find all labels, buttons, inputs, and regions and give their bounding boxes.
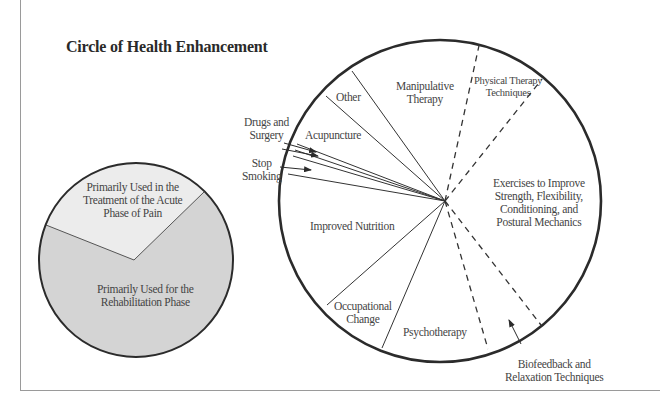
label-line: Psychotherapy bbox=[403, 326, 467, 339]
label-other: Other bbox=[336, 91, 361, 104]
label-line: Manipulative bbox=[396, 80, 454, 93]
label-line: Physical Therapy bbox=[474, 75, 542, 87]
label-line: Rehabilitation Phase bbox=[97, 296, 194, 309]
label-occupational-change: Occupational Change bbox=[334, 300, 392, 326]
label-physical-therapy: Physical Therapy Techniques bbox=[474, 75, 542, 99]
label-acupuncture: Acupuncture bbox=[305, 129, 361, 142]
label-line: Smoking bbox=[242, 170, 281, 183]
label-line: Primarily Used for the bbox=[97, 283, 194, 296]
label-drugs-and-surgery: Drugs and Surgery bbox=[244, 116, 289, 142]
label-line: Improved Nutrition bbox=[310, 220, 394, 233]
label-rehab-phase: Primarily Used for the Rehabilitation Ph… bbox=[97, 283, 194, 309]
label-line: Postural Mechanics bbox=[493, 216, 585, 229]
label-line: Conditioning, and bbox=[493, 203, 585, 216]
label-line: Drugs and bbox=[244, 116, 289, 129]
label-stop-smoking: Stop Smoking bbox=[242, 157, 281, 183]
label-line: Techniques bbox=[474, 87, 542, 99]
label-line: Exercises to Improve bbox=[493, 177, 585, 190]
label-line: Other bbox=[336, 91, 361, 104]
label-line: Biofeedback and bbox=[505, 358, 603, 371]
label-psychotherapy: Psychotherapy bbox=[403, 326, 467, 339]
label-improved-nutrition: Improved Nutrition bbox=[310, 220, 394, 233]
label-line: Therapy bbox=[396, 93, 454, 106]
label-manipulative-therapy: Manipulative Therapy bbox=[396, 80, 454, 106]
label-line: Acupuncture bbox=[305, 129, 361, 142]
label-line: Stop bbox=[242, 157, 281, 170]
label-line: Treatment of the Acute bbox=[83, 194, 182, 207]
label-biofeedback: Biofeedback and Relaxation Techniques bbox=[505, 358, 603, 384]
label-line: Strength, Flexibility, bbox=[493, 190, 585, 203]
label-line: Phase of Pain bbox=[83, 207, 182, 220]
label-acute-phase: Primarily Used in the Treatment of the A… bbox=[83, 181, 182, 220]
label-line: Relaxation Techniques bbox=[505, 371, 603, 384]
label-line: Primarily Used in the bbox=[83, 181, 182, 194]
label-exercises: Exercises to Improve Strength, Flexibili… bbox=[493, 177, 585, 229]
label-line: Occupational bbox=[334, 300, 392, 313]
label-line: Surgery bbox=[244, 129, 289, 142]
label-line: Change bbox=[334, 313, 392, 326]
